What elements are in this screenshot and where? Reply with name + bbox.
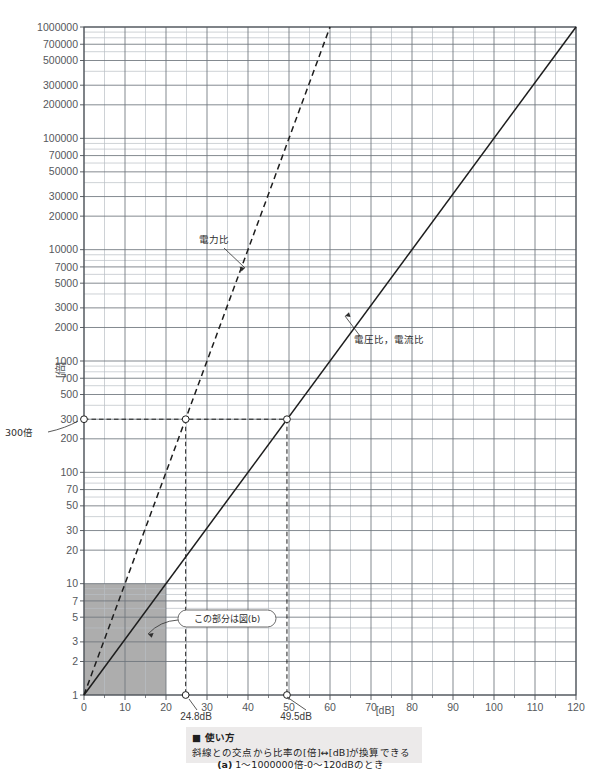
y-axis-tick-label: 70000 xyxy=(49,149,78,161)
x-axis-unit-label: [dB] xyxy=(376,704,395,716)
y-axis-tick-label: 300 xyxy=(60,413,78,425)
y-axis-tick-label: 7 xyxy=(72,595,78,607)
x-axis-tick-label: 80 xyxy=(406,701,418,713)
y-axis-tick-label: 3 xyxy=(72,635,78,647)
power-ratio-label: 電力比 xyxy=(199,234,229,245)
x-axis-tick-label: 40 xyxy=(242,701,254,713)
y-axis-tick-label: 50 xyxy=(66,499,78,511)
y-axis-tick-label: 50000 xyxy=(49,165,78,177)
x-axis-tick-label: 100 xyxy=(485,701,503,713)
y-axis-tick-label: 7000 xyxy=(55,261,79,273)
x-axis-tick-label: 110 xyxy=(527,701,544,713)
y-axis-tick-label: 3000 xyxy=(55,301,79,313)
y-axis-tick-label: 200 xyxy=(60,432,78,444)
x-axis-tick-label: 120 xyxy=(567,701,585,713)
y-axis-tick-label: 1 xyxy=(72,689,78,701)
y-axis-tick-label: 20 xyxy=(66,544,78,556)
y-axis-tick-label: 30 xyxy=(66,524,78,536)
x-axis-tick-label: 10 xyxy=(119,701,131,713)
intersection-marker xyxy=(81,416,88,423)
x-axis-tick-label: 0 xyxy=(81,701,87,713)
intersection-marker xyxy=(182,416,189,423)
note-49-5db-label: 49.5dB xyxy=(280,711,312,722)
figure-caption: (a) 1～1000000倍-0～120dBのとき xyxy=(0,757,601,771)
intersection-marker xyxy=(182,692,189,699)
figure-b-callout-label: この部分は図(b) xyxy=(194,613,261,624)
y-axis-tick-label: 70 xyxy=(66,483,78,495)
marker-300x-label: 300倍 xyxy=(5,427,33,438)
figure-caption-index: (a) xyxy=(217,759,232,770)
voltage-current-ratio-label: 電圧比，電流比 xyxy=(354,334,424,345)
usage-note-heading: ■ 使い方 xyxy=(192,730,416,744)
y-axis-tick-label: 100 xyxy=(60,466,78,478)
y-axis-tick-label: 1000000 xyxy=(37,21,78,33)
x-axis-tick-label: 20 xyxy=(160,701,172,713)
note-24-8db-label: 24.8dB xyxy=(180,711,212,722)
y-axis-tick-label: 700000 xyxy=(43,38,78,50)
figure-caption-text: 1～1000000倍-0～120dBのとき xyxy=(235,759,384,770)
y-axis-tick-label: 5 xyxy=(72,611,78,623)
x-axis-tick-label: 90 xyxy=(447,701,459,713)
y-axis-tick-label: 5000 xyxy=(55,277,79,289)
y-axis-tick-label: 10000 xyxy=(49,243,78,255)
y-axis-tick-label: 2000 xyxy=(55,321,79,333)
y-axis-tick-label: 100000 xyxy=(43,132,78,144)
y-axis-tick-label: 20000 xyxy=(49,210,78,222)
y-axis-tick-label: 300000 xyxy=(43,79,78,91)
y-axis-tick-label: 30000 xyxy=(49,190,78,202)
intersection-marker xyxy=(284,416,291,423)
y-axis-tick-label: 500 xyxy=(60,388,78,400)
y-axis-unit-label: [倍] xyxy=(54,362,66,378)
db-conversion-chart: 1235710203050701002003005007001000200030… xyxy=(0,0,601,778)
y-axis-tick-label: 2 xyxy=(72,655,78,667)
x-axis-tick-label: 60 xyxy=(324,701,336,713)
chart-canvas: 1235710203050701002003005007001000200030… xyxy=(0,0,601,778)
y-axis-tick-label: 500000 xyxy=(43,54,78,66)
y-axis-tick-label: 200000 xyxy=(43,98,78,110)
y-axis-tick-label: 10 xyxy=(66,577,78,589)
